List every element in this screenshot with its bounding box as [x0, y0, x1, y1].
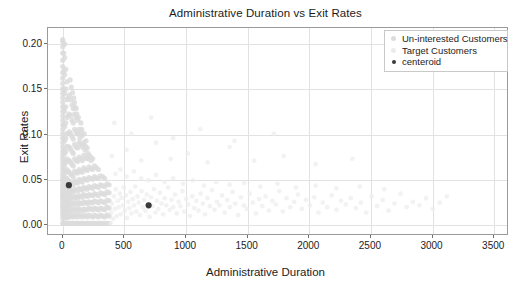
y-tick-mark-1	[44, 179, 47, 180]
x-tick-mark-1	[123, 235, 124, 238]
x-tick-mark-4	[308, 235, 309, 238]
y-tick-label-4: 0.20	[2, 38, 42, 49]
x-tick-mark-5	[370, 235, 371, 238]
legend-marker-icon	[388, 36, 399, 41]
x-tick-mark-6	[432, 235, 433, 238]
y-axis-label: Exit Rates	[18, 57, 30, 217]
legend-label: centeroid	[402, 56, 441, 67]
y-tick-label-0: 0.00	[2, 219, 42, 230]
x-tick-label-1: 500	[115, 240, 132, 251]
legend-label: Target Customers	[402, 45, 477, 56]
series-0	[60, 37, 112, 226]
scatter-plot-figure: Administrative Duration vs Exit Rates 05…	[0, 0, 531, 290]
x-tick-mark-3	[247, 235, 248, 238]
x-tick-label-0: 0	[59, 240, 65, 251]
x-tick-label-6: 3000	[420, 240, 442, 251]
x-tick-label-3: 1500	[236, 240, 258, 251]
x-axis-label: Administrative Duration	[0, 266, 531, 278]
y-tick-mark-3	[44, 88, 47, 89]
x-tick-label-5: 2500	[359, 240, 381, 251]
series-1	[108, 115, 449, 225]
x-tick-label-2: 1000	[174, 240, 196, 251]
legend-marker-icon	[388, 60, 399, 64]
y-tick-mark-2	[44, 134, 47, 135]
legend-entry-0: Un-interested Customers	[388, 33, 504, 44]
x-tick-mark-0	[62, 235, 63, 238]
legend-label: Un-interested Customers	[402, 33, 508, 44]
legend-entry-2: centeroid	[388, 56, 504, 67]
legend-marker-icon	[388, 48, 399, 53]
legend-entry-1: Target Customers	[388, 45, 504, 56]
chart-title: Administrative Duration vs Exit Rates	[0, 7, 531, 19]
x-tick-label-7: 3500	[482, 240, 504, 251]
y-tick-mark-0	[44, 224, 47, 225]
y-tick-mark-4	[44, 43, 47, 44]
x-tick-label-4: 2000	[297, 240, 319, 251]
x-tick-mark-7	[493, 235, 494, 238]
legend: Un-interested CustomersTarget Customersc…	[384, 30, 508, 72]
x-tick-mark-2	[185, 235, 186, 238]
